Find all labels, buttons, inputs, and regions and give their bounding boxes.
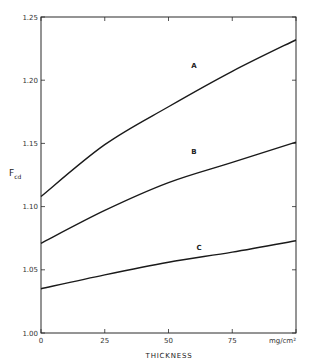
curve-b (41, 142, 296, 243)
y-tick-label: 1.20 (22, 77, 38, 85)
x-tick-label: 25 (100, 337, 109, 345)
curve-label-c: C (197, 244, 202, 252)
curve-c (41, 241, 296, 289)
x-tick-label: 50 (164, 337, 173, 345)
y-axis-title-subscript: cd (14, 173, 21, 180)
y-axis-title: Fcd (9, 168, 21, 180)
curve-label-b: B (191, 148, 196, 156)
curves (41, 40, 296, 289)
y-tick-label: 1.10 (22, 203, 38, 211)
x-axis-title: THICKNESS (145, 352, 193, 360)
y-axis-ticks: 1.001.051.101.151.201.25 (22, 14, 296, 338)
x-axis-ticks: 0255075mg/cm² (39, 17, 296, 345)
x-tick-label: 0 (39, 337, 43, 345)
y-tick-label: 1.25 (22, 14, 38, 22)
curve-a (41, 40, 296, 197)
chart: 1.001.051.101.151.201.25 0255075mg/cm² A… (0, 0, 313, 364)
y-tick-label: 1.00 (22, 330, 38, 338)
y-tick-label: 1.15 (22, 140, 38, 148)
plot-frame (41, 17, 296, 333)
curve-label-a: A (191, 62, 197, 70)
x-tick-label: mg/cm² (269, 337, 296, 345)
x-tick-label: 75 (228, 337, 237, 345)
plot-border (41, 17, 296, 333)
y-tick-label: 1.05 (22, 266, 38, 274)
